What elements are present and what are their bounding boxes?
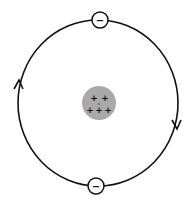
electron-sign: − <box>92 181 100 192</box>
proton-sign: + <box>90 93 98 103</box>
nucleus: + + + + + <box>82 86 116 120</box>
electron-top: − <box>92 12 108 28</box>
atom-diagram: + + + + + − − <box>0 0 192 205</box>
proton-sign: + <box>86 105 94 115</box>
proton-sign: + <box>95 105 103 115</box>
proton-sign: + <box>101 93 109 103</box>
orbit-arrow-up-icon <box>14 80 23 89</box>
electron-sign: − <box>96 15 104 26</box>
proton-sign: + <box>104 105 112 115</box>
electron-bottom: − <box>88 178 104 194</box>
